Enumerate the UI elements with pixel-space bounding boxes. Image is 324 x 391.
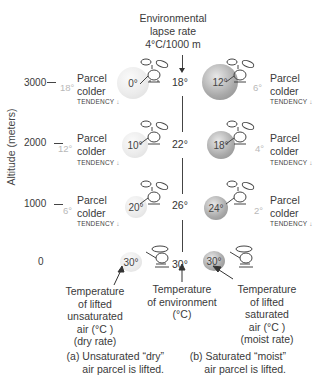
annotation-line: Temperature: [225, 283, 309, 296]
annotation-line: (dry rate): [55, 335, 135, 348]
moist-annotation: Temperature of lifted saturated air (°C …: [225, 283, 309, 346]
annotation-line: saturated: [225, 308, 309, 321]
caption-a-line2: air parcel is lifted.: [54, 363, 164, 376]
annotation-line: of environment: [140, 296, 224, 309]
caption-b-line2: air parcel is lifted.: [180, 363, 286, 376]
dry-annotation: Temperature of lifted unsaturated air (°…: [55, 285, 135, 348]
annotation-line: Temperature: [140, 283, 224, 296]
annotation-line: of lifted: [55, 298, 135, 311]
env-annotation: Temperature of environment (°C): [140, 283, 224, 321]
annotation-line: (°C): [140, 308, 224, 321]
annotation-line: of lifted: [225, 296, 309, 309]
annotation-line: air (°C ): [225, 321, 309, 334]
annotation-line: air (°C ): [55, 323, 135, 336]
annotation-line: unsaturated: [55, 310, 135, 323]
annotation-line: Temperature: [55, 285, 135, 298]
caption-a-line1: (a) Unsaturated “dry”: [54, 350, 164, 363]
annotation-line: (moist rate): [225, 333, 309, 346]
caption-b-line1: (b) Saturated “moist”: [180, 350, 286, 363]
caption-b: (b) Saturated “moist” air parcel is lift…: [180, 350, 286, 375]
caption-a: (a) Unsaturated “dry” air parcel is lift…: [54, 350, 164, 375]
